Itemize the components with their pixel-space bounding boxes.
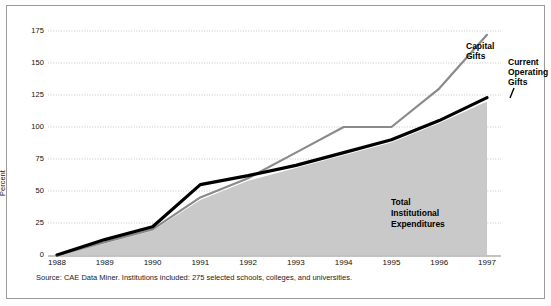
area-label-line3: Expenditures bbox=[391, 219, 445, 230]
x-tick-label-1988: 1988 bbox=[37, 258, 77, 267]
x-tick-label-1991: 1991 bbox=[180, 258, 220, 267]
y-tick-label-75: 75 bbox=[22, 154, 44, 163]
y-tick-label-175: 175 bbox=[22, 26, 44, 35]
current-operating-gifts-line1: Current bbox=[508, 57, 548, 67]
y-tick-label-100: 100 bbox=[22, 122, 44, 131]
x-tick-label-1996: 1996 bbox=[419, 258, 459, 267]
series-label-total-institutional-expenditures: Total Institutional Expenditures bbox=[391, 197, 445, 230]
series-label-capital-gifts: Capital Gifts bbox=[466, 41, 494, 61]
label-leader-line bbox=[510, 88, 514, 98]
current-operating-gifts-line3: Gifts bbox=[508, 77, 548, 87]
x-tick-label-1990: 1990 bbox=[133, 258, 173, 267]
y-tick-label-50: 50 bbox=[22, 186, 44, 195]
current-operating-gifts-line2: Operating bbox=[508, 67, 548, 77]
figure-container: 0255075100125150175 19881989199019911992… bbox=[0, 0, 551, 306]
y-axis-title: Percent bbox=[0, 136, 7, 196]
area-total-institutional-expenditures bbox=[57, 101, 487, 255]
x-tick-label-1994: 1994 bbox=[324, 258, 364, 267]
x-tick-label-1992: 1992 bbox=[228, 258, 268, 267]
x-tick-label-1993: 1993 bbox=[276, 258, 316, 267]
y-tick-label-150: 150 bbox=[22, 58, 44, 67]
x-tick-label-1989: 1989 bbox=[85, 258, 125, 267]
x-tick-label-1995: 1995 bbox=[371, 258, 411, 267]
area-label-line2: Institutional bbox=[391, 208, 445, 219]
capital-gifts-line2: Gifts bbox=[466, 51, 494, 61]
area-series-group bbox=[57, 101, 487, 255]
series-label-current-operating-gifts: Current Operating Gifts bbox=[508, 57, 548, 87]
capital-gifts-line1: Capital bbox=[466, 41, 494, 51]
source-note: Source: CAE Data Miner. Institutions inc… bbox=[36, 273, 352, 282]
y-tick-label-125: 125 bbox=[22, 90, 44, 99]
area-label-line1: Total bbox=[391, 197, 445, 208]
x-tick-label-1997: 1997 bbox=[467, 258, 507, 267]
y-tick-label-25: 25 bbox=[22, 218, 44, 227]
